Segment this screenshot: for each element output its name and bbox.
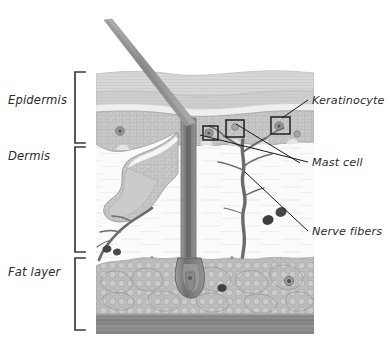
label-nerve-fibers: Nerve fibers	[312, 225, 382, 238]
label-keratinocyte: Keratinocyte	[312, 94, 385, 107]
label-fat-layer: Fat layer	[8, 265, 62, 279]
label-epidermis: Epidermis	[8, 93, 67, 107]
muscle-band	[96, 313, 314, 334]
hair-bulb	[175, 258, 204, 298]
label-mast-cell: Mast cell	[312, 156, 364, 169]
label-dermis: Dermis	[8, 149, 50, 163]
fat-layer	[96, 257, 314, 314]
skin-cross-section-figure: Epidermis Dermis Fat layer Keratinocyte …	[0, 0, 390, 346]
follicle-core	[186, 120, 191, 260]
